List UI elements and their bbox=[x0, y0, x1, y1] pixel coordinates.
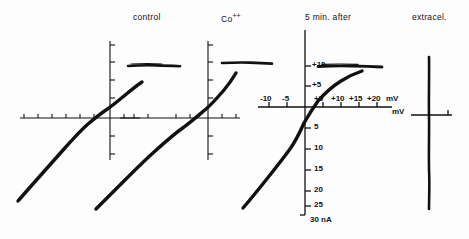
panel-cobalt-axes bbox=[120, 41, 240, 160]
extracellular-axis-unit-label: mV bbox=[392, 107, 404, 116]
x-tick-label-minus-10: -10 bbox=[260, 94, 272, 103]
x-tick-label-plus-10: +10 bbox=[331, 94, 345, 103]
y-tick-label-15: 15 bbox=[314, 164, 323, 173]
x-tick-label-minus-5: -5 bbox=[282, 94, 289, 103]
panel-title-control: control bbox=[133, 12, 161, 22]
y-tick-label-20: 20 bbox=[314, 185, 323, 194]
panel-title-cobalt: Co++ bbox=[221, 12, 241, 24]
panel-cobalt-trace bbox=[96, 73, 236, 209]
figure-container: control Co++ 5 min. after extracel. -10 … bbox=[0, 0, 469, 239]
x-tick-label-plus-15: +15 bbox=[349, 94, 363, 103]
panel-title-cobalt-text: Co bbox=[221, 14, 232, 24]
y-tick-label-5: 5 bbox=[314, 122, 318, 131]
panel-cobalt-saturation-trace bbox=[222, 63, 272, 64]
cobalt-charge-superscript: ++ bbox=[232, 12, 240, 19]
iv-curves-plot bbox=[0, 0, 469, 239]
panel-title-extracellular: extracel. bbox=[412, 12, 447, 22]
panel-five-min-axes bbox=[258, 30, 392, 215]
x-tick-label-plus-20: +20 bbox=[367, 94, 381, 103]
y-axis-end-label: 30 nA bbox=[310, 215, 332, 224]
y-tick-label-10: 10 bbox=[314, 143, 323, 152]
panel-control-saturation-trace bbox=[128, 64, 180, 67]
panel-five-min-trace bbox=[243, 71, 362, 208]
y-tick-label-25: 25 bbox=[314, 200, 323, 209]
panel-title-five-min: 5 min. after bbox=[305, 12, 351, 22]
panel-five-min-saturation-trace bbox=[318, 64, 382, 67]
panel-control-axes bbox=[20, 41, 140, 160]
x-tick-label-plus-5: +5 bbox=[314, 94, 323, 103]
panel-extracellular-axes bbox=[411, 110, 452, 115]
y-tick-label-plus-10: +10 bbox=[312, 60, 326, 69]
y-tick-label-plus-5: +5 bbox=[312, 80, 321, 89]
x-axis-unit-label: mV bbox=[386, 94, 398, 103]
